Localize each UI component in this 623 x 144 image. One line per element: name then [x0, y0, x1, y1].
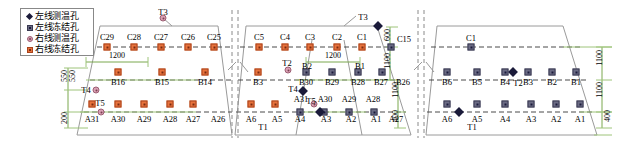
borehole-marker[interactable] [329, 69, 336, 76]
borehole-label-a31: A31 [85, 115, 100, 124]
borehole-label-b29: B29 [325, 78, 339, 87]
borehole-label-c28: C28 [127, 33, 141, 42]
dim-1100-c: 1100 [596, 50, 604, 66]
legend-item-left-temp: 左线测温孔 [24, 11, 90, 22]
borehole-marker[interactable] [573, 69, 580, 76]
borehole-label-c15: C15 [397, 35, 411, 44]
borehole-marker[interactable] [104, 44, 111, 51]
borehole-label-b1: B1 [355, 62, 365, 71]
borehole-label-a29: A29 [342, 95, 357, 104]
borehole-marker[interactable] [468, 44, 475, 51]
borehole-label-a3-right: A3 [526, 115, 536, 124]
borehole-label-b14: B14 [198, 78, 212, 87]
borehole-label-c2: C2 [332, 33, 342, 42]
borehole-marker[interactable] [248, 101, 255, 108]
borehole-marker[interactable] [167, 101, 174, 108]
borehole-label-c1-right: C1 [466, 34, 476, 43]
borehole-marker[interactable] [359, 44, 366, 51]
borehole-label-a31: A31 [294, 95, 309, 104]
temp-label-t3-left: T3 [158, 8, 167, 17]
borehole-marker[interactable] [474, 69, 481, 76]
dim-400-a: 400 [392, 110, 400, 122]
temp-label-t3-middle: T3 [358, 13, 367, 22]
dim-1200-middle: 1200 [325, 52, 341, 60]
temp-label-t1-middle: T1 [258, 123, 267, 132]
borehole-marker[interactable] [159, 69, 166, 76]
borehole-label-a4: A4 [295, 115, 305, 124]
temp-label-t4-middle: T4 [288, 85, 297, 94]
temp-marker-t4-left[interactable] [93, 87, 100, 94]
borehole-label-b16: B16 [111, 78, 125, 87]
borehole-marker[interactable] [115, 69, 122, 76]
legend-label-left-temp: 左线测温孔 [35, 11, 79, 22]
borehole-label-c27: C27 [154, 33, 168, 42]
dim-1100-a: 1100 [384, 53, 392, 69]
borehole-marker[interactable] [379, 69, 386, 76]
borehole-label-a6-right: A6 [442, 115, 452, 124]
borehole-marker[interactable] [282, 44, 289, 51]
temp-label-t4-left: T4 [81, 86, 90, 95]
borehole-marker[interactable] [577, 101, 584, 108]
borehole-marker[interactable] [158, 44, 165, 51]
borehole-marker[interactable] [256, 44, 263, 51]
borehole-label-c25: C25 [207, 33, 221, 42]
borehole-label-a26: A26 [211, 115, 226, 124]
dim-600: 600 [384, 29, 392, 41]
borehole-label-c5: C5 [254, 33, 264, 42]
black-diamond-icon [24, 14, 35, 19]
dim-400-b: 400 [604, 110, 612, 122]
borehole-label-b2-right: B2 [547, 78, 557, 87]
borehole-marker[interactable] [141, 101, 148, 108]
temp-label-t1-right: T1 [467, 123, 476, 132]
borehole-marker[interactable] [202, 69, 209, 76]
borehole-marker[interactable] [502, 101, 509, 108]
borehole-marker[interactable] [131, 44, 138, 51]
borehole-marker[interactable] [525, 69, 532, 76]
borehole-label-c3: C3 [305, 33, 315, 42]
borehole-label-a27: A27 [186, 115, 201, 124]
borehole-marker[interactable] [334, 44, 341, 51]
borehole-label-b3: B3 [253, 78, 263, 87]
grey-square-icon [24, 25, 35, 31]
dim-550-b: 550 [61, 70, 69, 82]
temp-label-t2-middle: T2 [282, 59, 291, 68]
borehole-marker[interactable] [190, 101, 197, 108]
borehole-label-c29: C29 [100, 33, 114, 42]
borehole-marker[interactable] [185, 44, 192, 51]
borehole-marker[interactable] [89, 101, 96, 108]
legend-item-left-freeze: 左线冻结孔 [24, 22, 90, 33]
borehole-label-a28: A28 [163, 115, 178, 124]
borehole-label-a2-right: A2 [551, 115, 561, 124]
borehole-label-b4-right: B4 [500, 78, 510, 87]
legend-item-right-temp: 右线测温孔 [24, 33, 90, 44]
borehole-marker[interactable] [474, 101, 481, 108]
borehole-label-b2: B2 [302, 62, 312, 71]
borehole-label-b5-right: B5 [472, 78, 482, 87]
borehole-marker[interactable] [549, 69, 556, 76]
dim-1100-d: 1100 [596, 82, 604, 98]
borehole-marker[interactable] [444, 69, 451, 76]
borehole-marker[interactable] [115, 101, 122, 108]
borehole-label-c1: C1 [357, 33, 367, 42]
borehole-marker-c15[interactable] [388, 44, 395, 51]
borehole-label-b1-right: B1 [571, 78, 581, 87]
borehole-marker[interactable] [528, 101, 535, 108]
borehole-marker[interactable] [307, 44, 314, 51]
borehole-label-b6-right: B6 [442, 78, 452, 87]
borehole-marker[interactable] [255, 69, 262, 76]
borehole-label-a1: A1 [371, 115, 381, 124]
borehole-marker[interactable] [272, 101, 279, 108]
borehole-label-a3: A3 [321, 115, 331, 124]
legend: 左线测温孔 左线冻结孔 右线测温孔 右线冻结孔 [20, 8, 94, 56]
legend-label-right-temp: 右线测温孔 [35, 33, 79, 44]
borehole-label-b3-right: B3 [523, 78, 533, 87]
legend-label-right-freeze: 右线冻结孔 [35, 44, 79, 55]
legend-item-right-freeze: 右线冻结孔 [24, 44, 90, 55]
borehole-label-b30: B30 [299, 78, 313, 87]
borehole-marker[interactable] [211, 44, 218, 51]
borehole-marker[interactable] [553, 101, 560, 108]
borehole-marker[interactable] [444, 101, 451, 108]
orange-square-icon [24, 47, 35, 53]
dim-550-a: 550 [69, 70, 77, 82]
dim-1100-b: 1100 [392, 82, 400, 98]
